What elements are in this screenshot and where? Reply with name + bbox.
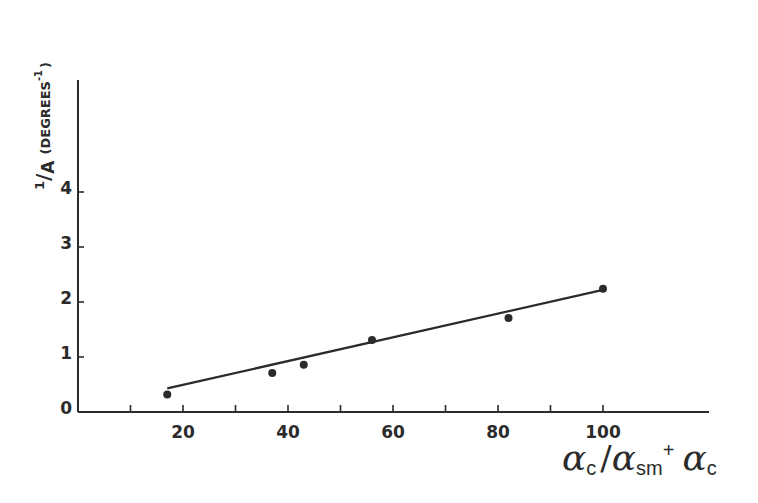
svg-text:αc/αsm+αc: αc/αsm+αc [562, 437, 717, 479]
x-label-alpha-c2: α [682, 437, 706, 478]
y-tick-label: 1 [60, 343, 72, 363]
x-tick-label: 40 [276, 422, 300, 442]
y-axis-label: 1/A(DEGREES-1) [31, 62, 58, 190]
x-label-slash: / [600, 438, 612, 478]
x-label-sub-c2: c [707, 457, 717, 479]
x-label-sub-c: c [586, 457, 596, 479]
x-label-alpha-sm: α [612, 437, 636, 478]
data-point [505, 314, 513, 322]
y-label-close: ) [38, 62, 53, 68]
y-label-unit: (DEGREES [38, 81, 53, 154]
data-point [300, 361, 308, 369]
x-label-plus: + [663, 439, 675, 461]
data-point [599, 285, 607, 293]
x-tick-label: 60 [381, 422, 405, 442]
y-tick-label: 4 [60, 178, 72, 198]
axes [78, 80, 709, 412]
y-ticks: 01234 [60, 178, 84, 418]
data-point [268, 369, 276, 377]
x-ticks: 20406080100 [131, 405, 621, 442]
regression-line [167, 290, 603, 388]
fit-line [167, 290, 603, 388]
y-label-numerator: 1 [32, 181, 47, 190]
data-point [163, 390, 171, 398]
y-label-denominator: A [38, 160, 58, 174]
data-points [163, 285, 607, 399]
y-label-exponent: -1 [33, 70, 44, 81]
y-tick-label: 3 [60, 233, 72, 253]
x-axis-label: αc/αsm+αc [562, 437, 717, 479]
y-tick-label: 2 [60, 288, 72, 308]
x-label-alpha-c: α [562, 437, 586, 478]
svg-text:1/A(DEGREES-1): 1/A(DEGREES-1) [31, 62, 58, 190]
x-tick-label: 20 [171, 422, 195, 442]
x-label-sub-sm: sm [636, 457, 663, 479]
y-tick-label: 0 [60, 398, 72, 418]
x-tick-label: 80 [486, 422, 510, 442]
chart: 20406080100 01234 1/A(DEGREES-1) αc/αsm+… [0, 0, 758, 503]
data-point [368, 336, 376, 344]
